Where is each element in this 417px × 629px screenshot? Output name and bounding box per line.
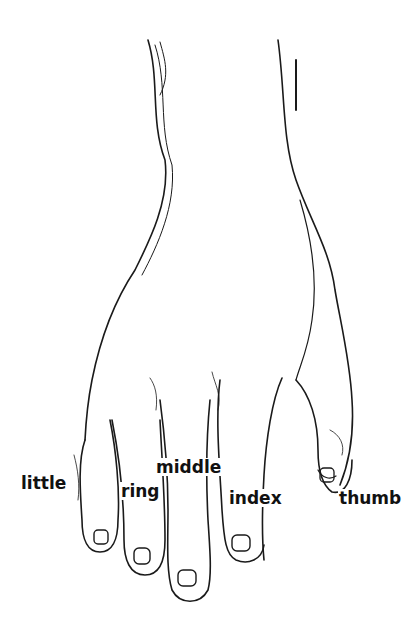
label-thumb: thumb [338,489,402,507]
label-ring: ring [120,482,160,500]
hand-sketch-drawing [0,0,417,629]
label-index: index [228,489,283,507]
label-little: little [20,474,67,492]
label-middle: middle [155,458,222,476]
